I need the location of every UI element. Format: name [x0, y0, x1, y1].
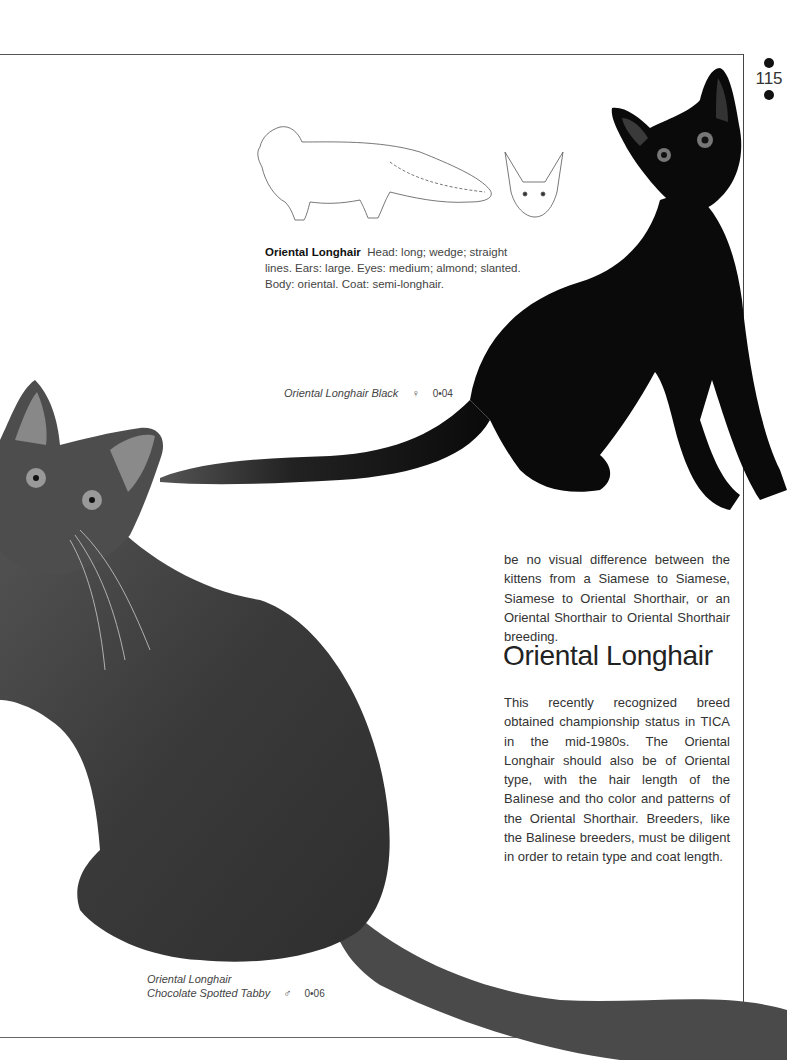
article-continued-paragraph: be no visual difference between the kitt… — [504, 550, 730, 646]
photo-caption-tabby: Oriental Longhair Chocolate Spotted Tabb… — [147, 972, 325, 1001]
head-outline-sketch — [505, 152, 563, 217]
caption-text: Oriental Longhair Black — [284, 387, 398, 399]
male-symbol-icon: ♂ — [283, 987, 291, 999]
breed-line-drawings — [250, 122, 570, 226]
article-paragraph: This recently recognized breed obtained … — [504, 693, 730, 867]
female-symbol-icon: ♀ — [411, 387, 419, 399]
caption-age: 0•06 — [305, 988, 325, 999]
book-page: 115 — [0, 0, 787, 1060]
caption-line2: Chocolate Spotted Tabby — [147, 987, 270, 999]
profile-breed-name: Oriental Longhair — [265, 246, 361, 258]
body-outline-sketch — [258, 127, 491, 220]
caption-line1: Oriental Longhair — [147, 972, 325, 986]
caption-age: 0•04 — [433, 388, 453, 399]
breed-profile: Oriental Longhair Head: long; wedge; str… — [265, 244, 535, 292]
top-frame-rule — [0, 54, 743, 55]
photo-caption-black: Oriental Longhair Black ♀ 0•04 — [284, 386, 453, 401]
section-heading: Oriental Longhair — [503, 640, 713, 672]
